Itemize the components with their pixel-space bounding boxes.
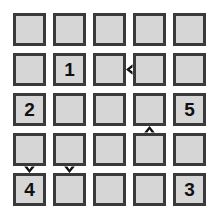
grid-cell-r4-c1[interactable] xyxy=(13,133,46,166)
grid-cell-r1-c4[interactable] xyxy=(133,13,166,46)
grid-cell-r4-c5[interactable] xyxy=(173,133,206,166)
grid-cell-r2-c2[interactable]: 1 xyxy=(53,53,86,86)
grid-cell-r3-c5[interactable]: 5 xyxy=(173,93,206,126)
grid-cell-r5-c5[interactable]: 3 xyxy=(173,173,206,206)
cell-label: 4 xyxy=(24,180,35,199)
grid-cell-r2-c3[interactable] xyxy=(93,53,126,86)
grid-cell-r1-c5[interactable] xyxy=(173,13,206,46)
grid-cell-r3-c4[interactable] xyxy=(133,93,166,126)
grid-cell-r5-c4[interactable] xyxy=(133,173,166,206)
cell-label: 1 xyxy=(64,60,75,79)
grid-cell-r5-c1[interactable]: 4 xyxy=(13,173,46,206)
grid-cell-r5-c3[interactable] xyxy=(93,173,126,206)
caret-up-icon xyxy=(143,123,156,136)
grid-cell-r1-c3[interactable] xyxy=(93,13,126,46)
cell-label: 5 xyxy=(184,100,195,119)
cell-label: 3 xyxy=(184,180,195,199)
grid-cell-r3-c3[interactable] xyxy=(93,93,126,126)
grid-cell-r3-c2[interactable] xyxy=(53,93,86,126)
caret-left-icon xyxy=(123,63,136,76)
grid-cell-r1-c1[interactable] xyxy=(13,13,46,46)
grid-cell-r4-c3[interactable] xyxy=(93,133,126,166)
grid-cell-r3-c1[interactable]: 2 xyxy=(13,93,46,126)
grid-cell-r4-c4[interactable] xyxy=(133,133,166,166)
caret-down-icon xyxy=(63,163,76,176)
grid-cell-r4-c2[interactable] xyxy=(53,133,86,166)
grid-cell-r1-c2[interactable] xyxy=(53,13,86,46)
cell-label: 2 xyxy=(24,100,35,119)
puzzle-board: 12543 xyxy=(0,0,217,220)
grid-cell-r2-c4[interactable] xyxy=(133,53,166,86)
grid-cell-r2-c5[interactable] xyxy=(173,53,206,86)
grid-cell-r2-c1[interactable] xyxy=(13,53,46,86)
caret-down-icon xyxy=(23,163,36,176)
grid-cell-r5-c2[interactable] xyxy=(53,173,86,206)
